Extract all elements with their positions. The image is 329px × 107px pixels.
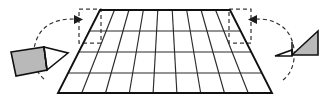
right-triangle-piece [275, 31, 318, 56]
dissection-diagram [0, 0, 329, 107]
left-triangle-shaded-part [11, 47, 47, 76]
right-arrowhead-icon [248, 15, 257, 24]
grid-horizontal-lines [58, 10, 272, 93]
right-rotation-arrow [248, 15, 294, 80]
figure-canvas [0, 0, 329, 107]
dashed-corner-regions [79, 9, 251, 43]
left-triangle-tip-part [44, 47, 68, 70]
right-triangle-shaded-part [292, 31, 318, 55]
left-triangle-piece [11, 47, 68, 76]
right-triangle-left-tip [275, 50, 292, 56]
